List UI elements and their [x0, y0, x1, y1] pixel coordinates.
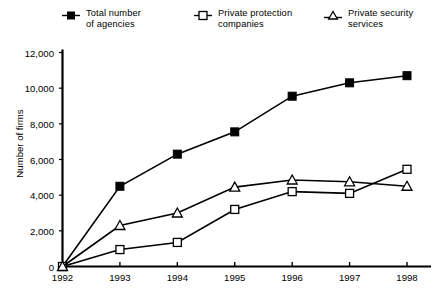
x-axis-tick-label: 1996	[265, 272, 319, 283]
x-axis-tick-labels: 1992199319941995199619971998	[0, 0, 439, 299]
x-axis-tick-label: 1997	[323, 272, 377, 283]
x-axis-tick-label: 1995	[208, 272, 262, 283]
x-axis-tick-label: 1993	[93, 272, 147, 283]
x-axis-tick-label: 1994	[150, 272, 204, 283]
x-axis-tick-label: 1992	[36, 272, 90, 283]
x-axis-tick-label: 1998	[380, 272, 434, 283]
chart-container: Total number of agencies Private protect…	[0, 0, 439, 299]
